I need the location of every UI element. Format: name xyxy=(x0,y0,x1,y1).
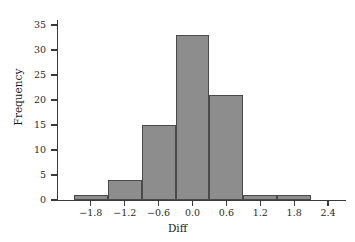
y-axis-tick xyxy=(51,49,57,50)
y-axis-line xyxy=(57,20,58,201)
y-axis-tick xyxy=(51,199,57,200)
x-axis-tick xyxy=(90,200,91,206)
histogram-chart: 05101520253035 −1.8−1.2−0.60.00.61.21.82… xyxy=(0,0,355,242)
y-axis-tick-label: 5 xyxy=(22,170,46,180)
y-axis-title: Frequency xyxy=(12,42,24,152)
y-axis-tick xyxy=(51,99,57,100)
x-axis-tick xyxy=(158,200,159,206)
x-axis-title: Diff xyxy=(0,222,355,234)
y-axis-tick-label: 30 xyxy=(22,45,46,55)
y-axis-tick-label: 15 xyxy=(22,120,46,130)
y-axis-tick-label: 20 xyxy=(22,95,46,105)
x-axis-tick xyxy=(327,200,328,206)
x-axis-tick xyxy=(192,200,193,206)
y-axis-tick xyxy=(51,174,57,175)
x-axis-tick-label: 2.4 xyxy=(308,208,348,218)
x-axis-tick xyxy=(260,200,261,206)
x-axis-tick xyxy=(226,200,227,206)
histogram-bar xyxy=(176,35,210,200)
x-axis-tick xyxy=(124,200,125,206)
histogram-bar xyxy=(209,95,243,200)
x-axis-line xyxy=(57,200,346,201)
histogram-bar xyxy=(108,180,142,200)
y-axis-tick-label: 25 xyxy=(22,70,46,80)
y-axis-tick-label: 35 xyxy=(22,20,46,30)
y-axis-tick-label: 0 xyxy=(22,195,46,205)
x-axis-tick xyxy=(294,200,295,206)
y-axis-tick xyxy=(51,124,57,125)
y-axis-tick xyxy=(51,149,57,150)
histogram-bar xyxy=(142,125,176,200)
y-axis-tick xyxy=(51,24,57,25)
y-axis-tick-label: 10 xyxy=(22,145,46,155)
y-axis-tick xyxy=(51,74,57,75)
